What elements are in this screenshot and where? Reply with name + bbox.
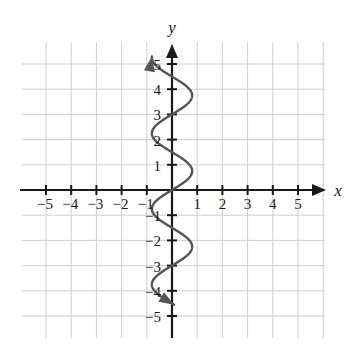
x-tick-label: −2: [113, 196, 129, 212]
coordinate-plane-svg: −5−4−3−2−11234554321−1−2−3−4−5xy: [0, 0, 351, 351]
x-tick-label: 5: [294, 196, 302, 212]
x-tick-label: −5: [37, 196, 53, 212]
y-tick-label: −1: [145, 208, 161, 224]
y-tick-label: 5: [154, 57, 162, 73]
x-tick-label: 2: [219, 196, 227, 212]
graph-figure: −5−4−3−2−11234554321−1−2−3−4−5xy: [0, 0, 351, 351]
x-tick-label: −3: [87, 196, 103, 212]
x-tick-label: 1: [193, 196, 201, 212]
x-tick-label: 3: [244, 196, 252, 212]
y-tick-label: 1: [154, 158, 162, 174]
y-tick-label: −5: [145, 309, 161, 325]
y-axis-label: y: [166, 18, 176, 37]
y-tick-label: −4: [145, 284, 161, 300]
y-tick-label: 4: [154, 82, 162, 98]
x-tick-label: −4: [62, 196, 78, 212]
y-tick-label: 2: [154, 133, 162, 149]
y-tick-label: −2: [145, 233, 161, 249]
y-tick-label: −3: [145, 259, 161, 275]
x-axis-label: x: [333, 181, 342, 200]
x-tick-label: 4: [269, 196, 277, 212]
y-tick-label: 3: [154, 107, 162, 123]
